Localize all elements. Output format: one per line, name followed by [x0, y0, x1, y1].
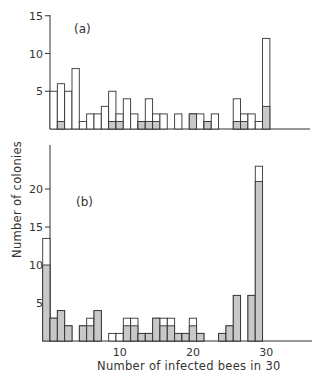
histogram-bar: [94, 114, 101, 129]
histogram-bar: [123, 99, 130, 129]
histogram-bar: [131, 114, 138, 129]
histogram-bar-shaded: [138, 333, 145, 341]
panel-a-label: (a): [74, 22, 91, 36]
histogram-bar-shaded: [175, 333, 182, 341]
y-tick-label: 5: [36, 85, 43, 98]
histogram-bar-shaded: [43, 265, 50, 341]
panel-b: 5101520 (b): [29, 145, 312, 341]
y-tick-label: 10: [29, 48, 43, 61]
histogram-bar-shaded: [263, 106, 270, 129]
y-axis-title: Number of colonies: [10, 141, 24, 258]
y-tick-label: 5: [36, 297, 43, 310]
histogram-bar-shaded: [116, 121, 123, 129]
histogram-bar-shaded: [109, 121, 116, 129]
histogram-bar-shaded: [255, 181, 262, 341]
histogram-bar: [101, 106, 108, 129]
histogram-bar-shaded: [94, 311, 101, 341]
histogram-bar: [211, 114, 218, 129]
y-tick-label: 15: [29, 10, 43, 23]
histogram-bar-shaded: [50, 318, 57, 341]
y-tick-label: 10: [29, 259, 43, 272]
histogram-bar-shaded: [189, 114, 196, 129]
histogram-bar-shaded: [145, 333, 152, 341]
y-tick-label: 15: [29, 221, 43, 234]
histogram-bar-shaded: [57, 311, 64, 341]
histogram-bar-shaded: [219, 333, 226, 341]
histogram-bar-shaded: [197, 333, 204, 341]
histogram-figure: 51015 (a) 5101520 (b) 102030 Number of c…: [0, 0, 327, 389]
histogram-bar: [79, 121, 86, 129]
histogram-bar-shaded: [65, 326, 72, 341]
histogram-bar-shaded: [233, 121, 240, 129]
histogram-bar-shaded: [167, 326, 174, 341]
histogram-bar-shaded: [233, 295, 240, 341]
histogram-bar-shaded: [57, 121, 64, 129]
histogram-bar-shaded: [248, 295, 255, 341]
histogram-bar: [255, 121, 262, 129]
histogram-bar-shaded: [138, 121, 145, 129]
histogram-bar: [175, 114, 182, 129]
histogram-bar-shaded: [160, 326, 167, 341]
histogram-bar: [116, 333, 123, 341]
histogram-bar-shaded: [204, 121, 211, 129]
histogram-bar-shaded: [189, 326, 196, 341]
x-tick-label: 30: [259, 346, 273, 359]
histogram-bar: [72, 69, 79, 129]
histogram-bar-shaded: [131, 326, 138, 341]
x-axis-title: Number of infected bees in 30: [97, 359, 281, 373]
histogram-bar-shaded: [153, 318, 160, 341]
y-tick-label: 20: [29, 183, 43, 196]
x-tick-label: 20: [186, 346, 200, 359]
histogram-bar: [248, 114, 255, 129]
histogram-bar: [197, 114, 204, 129]
x-tick-label: 10: [113, 346, 127, 359]
histogram-bar: [87, 114, 94, 129]
histogram-bar-shaded: [145, 121, 152, 129]
histogram-bar: [160, 114, 167, 129]
histogram-bar-shaded: [79, 326, 86, 341]
histogram-bar-shaded: [123, 326, 130, 341]
histogram-bar-shaded: [182, 333, 189, 341]
histogram-bar-shaded: [87, 326, 94, 341]
histogram-bar: [50, 91, 57, 129]
panel-b-label: (b): [76, 195, 93, 209]
histogram-bar-shaded: [226, 326, 233, 341]
histogram-bar: [109, 333, 116, 341]
histogram-bar-shaded: [241, 121, 248, 129]
histogram-bar: [65, 91, 72, 129]
histogram-bar-shaded: [153, 121, 160, 129]
panel-a: 51015 (a): [29, 10, 310, 129]
